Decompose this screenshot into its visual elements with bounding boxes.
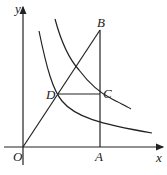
hyperbola-outer (55, 19, 131, 109)
label-a: A (94, 149, 103, 164)
label-origin: O (13, 149, 23, 164)
label-b: B (97, 15, 105, 30)
segment-ob (23, 30, 100, 147)
label-d: D (45, 87, 56, 102)
hyperbola-inner (39, 31, 152, 133)
label-x: x (155, 150, 162, 165)
label-y: y (13, 1, 21, 16)
diagram-canvas: y x O A B C D (0, 0, 167, 175)
label-c: C (103, 86, 112, 101)
